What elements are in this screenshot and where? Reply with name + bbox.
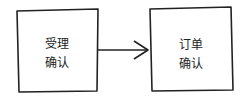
node-order-confirm: 订单 确认 [150,7,233,91]
node-label-line2: 确认 [45,56,69,70]
edge-arrow [98,41,148,59]
node-label-line1: 订单 [179,38,203,52]
node-label-line2: 确认 [179,57,203,71]
flow-diagram: 受理 确认 订单 确认 [0,0,248,100]
node-label-line1: 受理 [45,37,69,51]
node-accept-confirm: 受理 确认 [17,9,98,92]
